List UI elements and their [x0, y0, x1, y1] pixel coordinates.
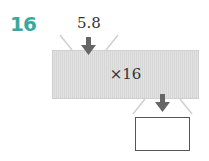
- answer-box[interactable]: [135, 117, 190, 151]
- arrow-down-icon: [81, 37, 96, 55]
- arrow-down-icon: [155, 94, 170, 112]
